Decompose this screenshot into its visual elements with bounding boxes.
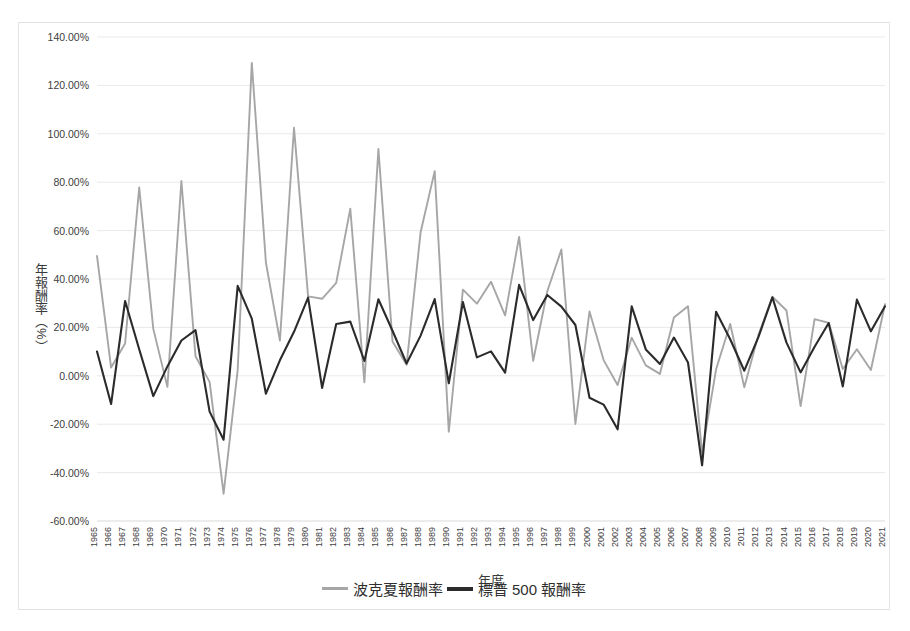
x-axis-tick: 1976 bbox=[244, 527, 254, 547]
legend-item-berkshire: 波克夏報酬率 bbox=[322, 578, 443, 599]
x-axis-tick: 2016 bbox=[807, 527, 817, 547]
x-axis-tick: 1975 bbox=[230, 527, 240, 547]
x-axis-tick: 1985 bbox=[370, 527, 380, 547]
y-axis-tick: 120.00% bbox=[48, 79, 89, 91]
chart-plot-area: 140.00%120.00%100.00%80.00%60.00%40.00%2… bbox=[19, 23, 891, 611]
x-axis-tick: 1966 bbox=[103, 527, 113, 547]
data-series-lines bbox=[97, 63, 885, 494]
x-axis-tick: 1988 bbox=[413, 527, 423, 547]
x-axis-tick: 1969 bbox=[145, 527, 155, 547]
x-axis-tick: 2002 bbox=[610, 527, 620, 547]
x-axis-tick: 1979 bbox=[286, 527, 296, 547]
y-axis-tick: -40.00% bbox=[50, 467, 89, 479]
x-axis-tick-labels: 1965196619671968196919701971197219731974… bbox=[89, 527, 887, 547]
legend-line-swatch-sp500 bbox=[447, 587, 473, 591]
x-axis-tick: 1990 bbox=[441, 527, 451, 547]
x-axis-tick: 2000 bbox=[582, 527, 592, 547]
x-axis-tick: 2011 bbox=[736, 527, 746, 546]
x-axis-tick: 1996 bbox=[525, 527, 535, 547]
x-axis-tick: 1974 bbox=[216, 527, 226, 547]
y-axis-tick: 60.00% bbox=[53, 225, 89, 237]
x-axis-tick: 1973 bbox=[202, 527, 212, 547]
x-axis-tick: 2003 bbox=[624, 527, 634, 547]
x-axis-tick: 2015 bbox=[793, 527, 803, 547]
x-axis-tick: 1989 bbox=[427, 527, 437, 547]
y-axis-tick: 0.00% bbox=[59, 370, 89, 382]
x-axis-tick: 2005 bbox=[652, 527, 662, 547]
x-axis-tick: 2006 bbox=[666, 527, 676, 547]
x-axis-tick: 2019 bbox=[849, 527, 859, 547]
y-axis-tick: 80.00% bbox=[53, 176, 89, 188]
y-axis-tick: 100.00% bbox=[48, 128, 89, 140]
x-axis-tick: 2020 bbox=[863, 527, 873, 547]
legend-item-sp500: 標普 500 報酬率 bbox=[447, 578, 586, 599]
x-axis-tick: 1971 bbox=[173, 527, 183, 547]
x-axis-tick: 2008 bbox=[694, 527, 704, 547]
chart-legend: 波克夏報酬率 標普 500 報酬率 bbox=[19, 578, 889, 599]
y-axis-tick: -60.00% bbox=[50, 515, 89, 527]
chart-card: 140.00%120.00%100.00%80.00%60.00%40.00%2… bbox=[18, 22, 890, 610]
x-axis-tick: 2012 bbox=[750, 527, 760, 547]
x-axis-tick: 2021 bbox=[877, 527, 887, 547]
x-axis-tick: 1967 bbox=[117, 527, 127, 547]
x-axis-tick: 1999 bbox=[567, 527, 577, 547]
legend-label-berkshire: 波克夏報酬率 bbox=[353, 578, 443, 599]
x-axis-tick: 1986 bbox=[385, 527, 395, 547]
legend-line-swatch-berkshire bbox=[322, 587, 348, 590]
x-axis-tick: 1994 bbox=[497, 527, 507, 547]
x-axis-tick: 1995 bbox=[511, 527, 521, 547]
series-line-sp500 bbox=[97, 285, 885, 466]
y-axis-tick: 20.00% bbox=[53, 321, 89, 333]
x-axis-tick: 2009 bbox=[708, 527, 718, 547]
x-axis-tick: 1987 bbox=[399, 527, 409, 547]
x-axis-tick: 1970 bbox=[159, 527, 169, 547]
x-axis-tick: 2010 bbox=[722, 527, 732, 547]
line-chart: 140.00%120.00%100.00%80.00%60.00%40.00%2… bbox=[19, 23, 891, 611]
x-axis-tick: 2014 bbox=[779, 527, 789, 547]
x-axis-tick: 1981 bbox=[314, 527, 324, 547]
y-axis-tick-labels: 140.00%120.00%100.00%80.00%60.00%40.00%2… bbox=[48, 31, 89, 527]
x-axis-tick: 1984 bbox=[356, 527, 366, 547]
x-axis-tick: 1972 bbox=[188, 527, 198, 547]
legend-label-sp500: 標普 500 報酬率 bbox=[478, 578, 586, 599]
y-axis-tick: 140.00% bbox=[48, 31, 89, 43]
x-axis-tick: 1998 bbox=[553, 527, 563, 547]
x-axis-tick: 1978 bbox=[272, 527, 282, 547]
series-line-berkshire bbox=[97, 63, 885, 494]
x-axis-tick: 1983 bbox=[342, 527, 352, 547]
x-axis-tick: 1992 bbox=[469, 527, 479, 547]
x-axis-tick: 1977 bbox=[258, 527, 268, 547]
y-axis-title: 年報酬率（%） bbox=[34, 263, 49, 353]
x-axis-tick: 2018 bbox=[835, 527, 845, 547]
x-axis-tick: 2013 bbox=[764, 527, 774, 547]
x-axis-tick: 1997 bbox=[539, 527, 549, 547]
x-axis-tick: 1980 bbox=[300, 527, 310, 547]
x-axis-tick: 2007 bbox=[680, 527, 690, 547]
x-axis-tick: 1982 bbox=[328, 527, 338, 547]
x-axis-tick: 1965 bbox=[89, 527, 99, 547]
x-axis-tick: 2017 bbox=[821, 527, 831, 547]
gridlines bbox=[97, 37, 885, 521]
x-axis-tick: 1993 bbox=[483, 527, 493, 547]
x-axis-tick: 1991 bbox=[455, 527, 465, 547]
x-axis-tick: 2004 bbox=[638, 527, 648, 547]
y-axis-tick: -20.00% bbox=[50, 418, 89, 430]
y-axis-tick: 40.00% bbox=[53, 273, 89, 285]
x-axis-tick: 2001 bbox=[596, 527, 606, 547]
x-axis-tick: 1968 bbox=[131, 527, 141, 547]
